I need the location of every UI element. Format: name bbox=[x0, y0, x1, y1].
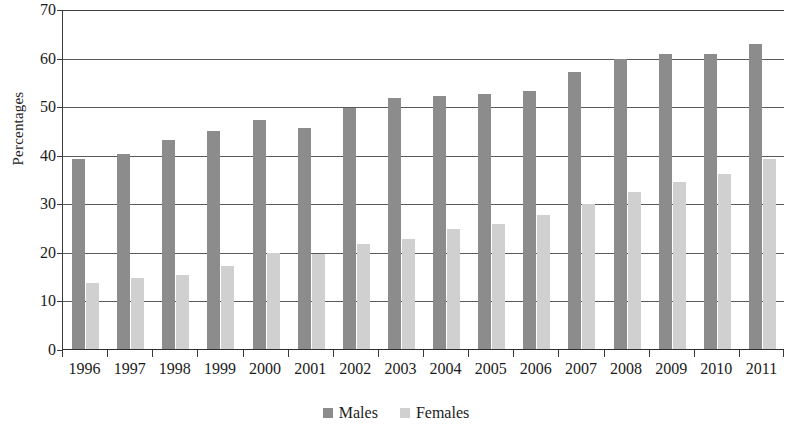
bar-group bbox=[334, 10, 379, 350]
y-axis-tick-label: 30 bbox=[22, 196, 56, 212]
x-axis-tick-mark bbox=[513, 350, 514, 357]
bar-females-1997 bbox=[131, 278, 144, 350]
x-axis-tick-mark bbox=[288, 350, 289, 357]
chart-legend: MalesFemales bbox=[0, 404, 792, 422]
bar-group bbox=[153, 10, 198, 350]
bar-females-2009 bbox=[673, 182, 686, 350]
legend-swatch-icon bbox=[323, 408, 333, 418]
bar-females-2006 bbox=[537, 215, 550, 350]
x-axis-tick-mark bbox=[423, 350, 424, 357]
bar-females-2004 bbox=[447, 229, 460, 350]
x-axis-tick-mark bbox=[604, 350, 605, 357]
bar-males-2007 bbox=[568, 72, 581, 350]
x-axis-tick-mark bbox=[243, 350, 244, 357]
bar-group bbox=[695, 10, 740, 350]
bar-males-2003 bbox=[388, 98, 401, 350]
bar-males-1998 bbox=[162, 140, 175, 350]
legend-item-females: Females bbox=[400, 404, 469, 422]
x-axis-tick-mark bbox=[694, 350, 695, 357]
bar-group bbox=[559, 10, 604, 350]
bar-males-2001 bbox=[298, 128, 311, 350]
bar-females-1998 bbox=[176, 275, 189, 350]
x-axis-tick-mark bbox=[378, 350, 379, 357]
bar-group bbox=[244, 10, 289, 350]
bar-males-2002 bbox=[343, 108, 356, 350]
x-axis-tick-mark bbox=[649, 350, 650, 357]
y-axis-tick-label: 60 bbox=[22, 51, 56, 67]
bar-group bbox=[424, 10, 469, 350]
x-axis-tick-mark bbox=[197, 350, 198, 357]
bar-males-2006 bbox=[523, 91, 536, 350]
x-axis-tick-mark bbox=[152, 350, 153, 357]
y-axis-tick-label: 10 bbox=[22, 293, 56, 309]
bar-series-container bbox=[63, 10, 784, 350]
legend-swatch-icon bbox=[400, 408, 410, 418]
bar-males-2010 bbox=[704, 54, 717, 350]
bar-group bbox=[108, 10, 153, 350]
x-axis-tick-mark bbox=[558, 350, 559, 357]
bar-group bbox=[650, 10, 695, 350]
bar-group bbox=[379, 10, 424, 350]
bar-females-2001 bbox=[312, 254, 325, 350]
legend-label: Males bbox=[339, 404, 378, 422]
bar-males-1996 bbox=[72, 159, 85, 350]
bar-females-2000 bbox=[267, 253, 280, 350]
bar-males-2011 bbox=[749, 44, 762, 350]
bar-group bbox=[469, 10, 514, 350]
x-axis-tick-label: 2011 bbox=[733, 358, 789, 380]
x-axis-tick-mark bbox=[783, 350, 784, 357]
bar-group bbox=[514, 10, 559, 350]
bar-males-2005 bbox=[478, 94, 491, 350]
y-axis-tick-label: 0 bbox=[22, 342, 56, 358]
bar-males-2009 bbox=[659, 54, 672, 350]
bar-group bbox=[198, 10, 243, 350]
bar-males-1999 bbox=[207, 131, 220, 350]
x-axis-tick-mark bbox=[739, 350, 740, 357]
y-axis-tick-label: 20 bbox=[22, 245, 56, 261]
y-axis-tick-label: 50 bbox=[22, 99, 56, 115]
bar-group bbox=[63, 10, 108, 350]
y-axis-tick-mark bbox=[57, 156, 63, 157]
bar-females-2008 bbox=[628, 192, 641, 350]
bar-group bbox=[740, 10, 785, 350]
y-axis-tick-label: 70 bbox=[22, 2, 56, 18]
bar-females-2003 bbox=[402, 239, 415, 350]
bar-group bbox=[289, 10, 334, 350]
x-axis-tick-labels: 1996199719981999200020012002200320042005… bbox=[62, 358, 784, 384]
bar-females-1999 bbox=[221, 266, 234, 351]
y-axis-tick-mark bbox=[57, 301, 63, 302]
x-axis-tick-mark bbox=[107, 350, 108, 357]
y-axis-tick-mark bbox=[57, 10, 63, 11]
y-axis-tick-label: 40 bbox=[22, 148, 56, 164]
y-axis-tick-mark bbox=[57, 107, 63, 108]
bar-group bbox=[605, 10, 650, 350]
bar-females-2007 bbox=[582, 204, 595, 350]
y-axis-tick-mark bbox=[57, 204, 63, 205]
bar-females-2011 bbox=[763, 159, 776, 350]
legend-label: Females bbox=[416, 404, 469, 422]
bar-males-2008 bbox=[614, 59, 627, 350]
x-axis-tick-mark bbox=[468, 350, 469, 357]
plot-area bbox=[62, 10, 784, 350]
bar-females-2002 bbox=[357, 244, 370, 350]
bar-males-1997 bbox=[117, 154, 130, 350]
y-axis-tick-mark bbox=[57, 59, 63, 60]
bar-females-1996 bbox=[86, 283, 99, 350]
x-axis-tick-mark bbox=[62, 350, 63, 357]
bar-males-2004 bbox=[433, 96, 446, 351]
y-axis-tick-labels: 706050403020100 bbox=[0, 0, 56, 360]
x-axis-tick-marks bbox=[62, 350, 784, 358]
bar-females-2010 bbox=[718, 174, 731, 350]
bar-females-2005 bbox=[492, 224, 505, 350]
bar-males-2000 bbox=[253, 120, 266, 350]
x-axis-tick-mark bbox=[333, 350, 334, 357]
legend-item-males: Males bbox=[323, 404, 378, 422]
bar-chart: Percentages 706050403020100 199619971998… bbox=[0, 0, 792, 432]
y-axis-tick-mark bbox=[57, 253, 63, 254]
